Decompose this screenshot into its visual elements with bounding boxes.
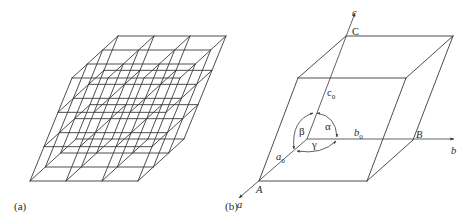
- lattice-line: [184, 36, 226, 139]
- panel-a-label: (a): [14, 200, 27, 213]
- lattice-line: [97, 50, 139, 153]
- lattice-line: [76, 36, 118, 139]
- lattice-line: [116, 105, 162, 147]
- lattice-line: [138, 78, 180, 181]
- lattice-line: [130, 70, 176, 112]
- lattice-line: [44, 105, 90, 147]
- lattice-line: [138, 139, 184, 181]
- alpha-label: α: [325, 120, 331, 132]
- lattice-line: [30, 139, 76, 181]
- lattice-line: [66, 139, 112, 181]
- crystal-axes: [239, 13, 454, 198]
- lattice-line: [117, 64, 159, 167]
- unit-cell: [259, 36, 453, 181]
- lattice-line: [133, 50, 175, 153]
- gamma-label: γ: [311, 138, 317, 150]
- lattice-line: [58, 70, 104, 112]
- lattice-line: [144, 36, 190, 78]
- c0-length-label: c0: [327, 87, 336, 101]
- lattice-line: [102, 78, 144, 181]
- lattice-line: [166, 70, 212, 112]
- a0-length-label: a0: [276, 151, 285, 165]
- lattice-line: [80, 105, 126, 147]
- lattice-line: [180, 36, 226, 78]
- lattice-line: [152, 105, 198, 147]
- cell-edge: [406, 36, 453, 78]
- point-C-label: C: [352, 26, 359, 37]
- point-B-label: B: [416, 129, 423, 140]
- cell-edge: [367, 140, 413, 181]
- space-lattice-grid: [30, 36, 226, 181]
- lattice-line: [72, 36, 118, 78]
- lattice-line: [108, 36, 154, 78]
- lattice-line: [112, 36, 154, 139]
- cell-edge: [367, 78, 406, 181]
- b0-length-label: b0: [354, 127, 363, 141]
- c-axis-label: c: [352, 7, 357, 18]
- lattice-line: [66, 78, 108, 181]
- b-axis-label: b: [451, 145, 456, 156]
- lattice-line: [45, 64, 87, 167]
- lattice-line: [81, 64, 123, 167]
- lattice-line: [148, 36, 190, 139]
- a-axis-label: a: [237, 199, 242, 210]
- crystal-lattice-figure: (a) (b): [0, 0, 468, 218]
- lattice-line: [30, 78, 72, 181]
- cell-edge: [259, 78, 298, 181]
- point-A-label: A: [255, 184, 263, 195]
- cell-edge: [298, 36, 346, 78]
- lattice-line: [94, 70, 140, 112]
- a-axis-arrow: [239, 139, 307, 198]
- lattice-line: [169, 50, 211, 153]
- beta-label: β: [299, 125, 305, 137]
- lattice-line: [61, 50, 103, 153]
- cell-edge: [413, 36, 453, 140]
- lattice-line: [102, 139, 148, 181]
- lattice-line: [153, 64, 195, 167]
